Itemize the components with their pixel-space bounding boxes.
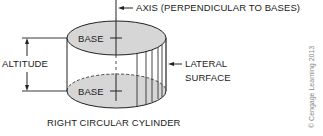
diagram-title: RIGHT CIRCULAR CYLINDER xyxy=(47,118,181,128)
lateral-label-line2: SURFACE xyxy=(185,73,231,83)
altitude-label: ALTITUDE xyxy=(2,59,48,69)
lateral-label-line1: LATERAL xyxy=(185,59,227,69)
cylinder-diagram xyxy=(0,0,323,136)
altitude-arrow-up-icon xyxy=(25,38,29,44)
copyright-notice: © Cengage Learning 2013 xyxy=(308,46,315,128)
top-base-label: BASE xyxy=(78,34,104,44)
axis-arrowhead-icon xyxy=(118,6,124,10)
lateral-arrowhead-icon xyxy=(168,62,174,66)
altitude-arrow-down-icon xyxy=(25,85,29,91)
axis-label: AXIS (PERPENDICULAR TO BASES) xyxy=(136,3,300,13)
bottom-base-label: BASE xyxy=(78,87,104,97)
